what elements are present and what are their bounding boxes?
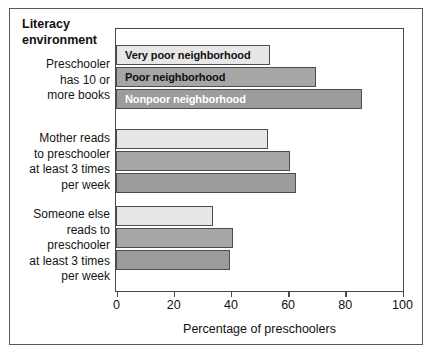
x-tick: [288, 292, 290, 297]
x-tick-label: 60: [268, 298, 308, 312]
bar: [116, 228, 233, 248]
category-label: Someone else reads to preschooler at lea…: [5, 207, 110, 285]
x-tick-label: 80: [325, 298, 365, 312]
bar: [116, 250, 230, 270]
category-label: Mother reads to preschooler at least 3 t…: [5, 131, 110, 193]
bar: Very poor neighborhood: [116, 45, 270, 65]
category-label: Preschooler has 10 or more books: [5, 57, 110, 104]
x-axis-title: Percentage of preschoolers: [115, 322, 404, 336]
bar: [116, 151, 290, 171]
bar: [116, 206, 213, 226]
bar-group: [116, 129, 403, 195]
bar-group: Very poor neighborhoodPoor neighborhoodN…: [116, 45, 403, 111]
x-tick: [117, 292, 119, 297]
x-tick: [345, 292, 347, 297]
series-label: Poor neighborhood: [117, 71, 225, 83]
bar: Nonpoor neighborhood: [116, 89, 362, 109]
x-tick-label: 100: [383, 298, 423, 312]
bar-group: [116, 206, 403, 272]
x-tick: [174, 292, 176, 297]
series-label: Very poor neighborhood: [117, 49, 251, 61]
x-tick-label: 20: [154, 298, 194, 312]
x-tick-label: 0: [97, 298, 137, 312]
x-tick-label: 40: [211, 298, 251, 312]
bar: [116, 129, 268, 149]
figure-title: Literacy environment: [22, 16, 117, 48]
bar: Poor neighborhood: [116, 67, 316, 87]
x-tick: [403, 292, 405, 297]
figure-container: Literacy environment Very poor neighborh…: [0, 0, 433, 355]
series-label: Nonpoor neighborhood: [117, 93, 246, 105]
plot-area: Very poor neighborhoodPoor neighborhoodN…: [115, 28, 404, 292]
bar: [116, 173, 296, 193]
x-tick: [231, 292, 233, 297]
